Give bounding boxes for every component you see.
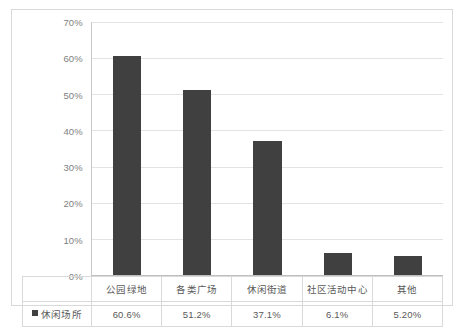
y-axis-tick: 10% — [63, 234, 83, 245]
bar-qita[interactable] — [394, 256, 422, 275]
category-cell: 社区活动中心 — [302, 277, 372, 302]
category-cell: 休闲街道 — [232, 277, 302, 302]
bar-slot — [162, 22, 232, 275]
bar-shequ-huodong-zhongxin[interactable] — [324, 253, 352, 275]
category-cell: 公园绿地 — [92, 277, 162, 302]
bar-slot — [303, 22, 373, 275]
category-cell: 其他 — [372, 277, 442, 302]
bar-gelei-guangchang[interactable] — [183, 90, 211, 275]
chart-frame: 70% 60% 50% 40% 30% 20% 10% 0% — [11, 9, 453, 306]
category-cell: 各类广场 — [162, 277, 232, 302]
table-row-values: 休闲场所 60.6% 51.2% 37.1% 6.1% 5.20% — [23, 302, 443, 327]
y-axis-tick: 30% — [63, 162, 83, 173]
bar-slot — [232, 22, 302, 275]
y-axis-tick: 70% — [63, 17, 83, 28]
y-axis-tick: 50% — [63, 89, 83, 100]
table-row-categories: 公园绿地 各类广场 休闲街道 社区活动中心 其他 — [23, 277, 443, 302]
value-cell: 6.1% — [302, 302, 372, 327]
y-axis-tick: 20% — [63, 198, 83, 209]
value-cell: 51.2% — [162, 302, 232, 327]
y-axis: 70% 60% 50% 40% 30% 20% 10% 0% — [12, 22, 88, 276]
y-axis-tick: 40% — [63, 125, 83, 136]
bar-slot — [373, 22, 443, 275]
data-table: 公园绿地 各类广场 休闲街道 社区活动中心 其他 休闲场所 60.6% 51.2… — [22, 276, 443, 327]
value-cell: 5.20% — [372, 302, 442, 327]
square-marker-icon — [32, 310, 38, 316]
bar-slot — [92, 22, 162, 275]
bar-gongyuanludi[interactable] — [113, 56, 141, 275]
legend-entry[interactable]: 休闲场所 — [23, 302, 92, 327]
y-axis-tick: 60% — [63, 53, 83, 64]
value-cell: 60.6% — [92, 302, 162, 327]
value-cell: 37.1% — [232, 302, 302, 327]
legend-spacer-cell — [23, 277, 92, 302]
bar-xiuxian-jiedao[interactable] — [253, 141, 281, 275]
bars-layer — [92, 22, 443, 275]
plot-area — [91, 22, 443, 276]
legend-label: 休闲场所 — [41, 309, 82, 320]
